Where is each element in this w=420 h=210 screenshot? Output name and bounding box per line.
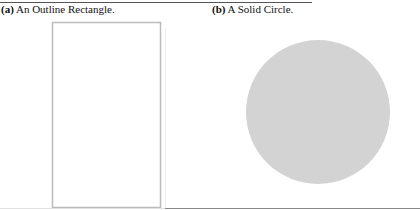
bottom-rule-right (165, 208, 420, 209)
bottom-rule-left (0, 208, 165, 209)
solid-circle (246, 40, 390, 184)
figure-canvas (0, 0, 420, 210)
outline-rectangle (53, 23, 161, 208)
